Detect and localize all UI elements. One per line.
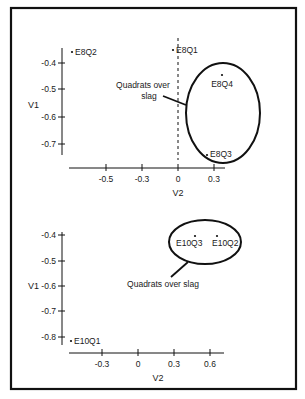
- top-x-tick-label: 0.3: [208, 174, 220, 184]
- annotation-text-top: Quadrats over: [116, 80, 170, 90]
- bottom-x-tick-label: -0.3: [95, 359, 110, 369]
- data-point-e10q2: [216, 235, 218, 237]
- bottom-y-axis-title: V1: [28, 281, 39, 291]
- slag-ellipse-top: [186, 63, 260, 163]
- top-x-tick-label: 0: [176, 174, 181, 184]
- annotation-leader-bottom: [171, 262, 188, 277]
- point-label-e8q3: E8Q3: [210, 149, 232, 159]
- chart-bottom: -0.4 -0.5 -0.6 -0.7 -0.8 V1 -0.3 0 0.3 0…: [28, 220, 241, 383]
- top-y-tick-label: -0.6: [41, 112, 56, 122]
- bottom-y-tick-label: -0.8: [41, 332, 56, 342]
- data-point-e8q2: [71, 51, 73, 53]
- data-point-e8q3: [206, 154, 208, 156]
- top-x-tick-label: -0.5: [99, 174, 114, 184]
- bottom-y-tick-label: -0.4: [41, 230, 56, 240]
- chart-top: -0.4 -0.5 -0.6 -0.7 V1 -0.5 -0.3 0 0.3 V…: [28, 38, 260, 198]
- top-x-axis-title: V2: [172, 188, 183, 198]
- annotation-text-top-line2: slag: [141, 91, 157, 101]
- point-label-e8q2: E8Q2: [75, 47, 97, 57]
- data-point-e10q1: [70, 340, 72, 342]
- figure: -0.4 -0.5 -0.6 -0.7 V1 -0.5 -0.3 0 0.3 V…: [0, 0, 305, 399]
- top-x-tick-label: -0.3: [135, 174, 150, 184]
- top-y-tick-label: -0.5: [41, 84, 56, 94]
- top-y-axis-title: V1: [28, 100, 39, 110]
- data-point-e10q3: [194, 235, 196, 237]
- bottom-x-tick-label: 0.3: [168, 359, 180, 369]
- bottom-y-tick-label: -0.6: [41, 281, 56, 291]
- bottom-x-tick-label: 0.6: [204, 359, 216, 369]
- point-label-e10q2: E10Q2: [212, 238, 239, 248]
- bottom-y-tick-label: -0.7: [41, 306, 56, 316]
- data-point-e8q1: [172, 49, 174, 51]
- annotation-text-bottom: Quadrats over slag: [127, 279, 199, 289]
- bottom-x-axis-title: V2: [152, 373, 163, 383]
- point-label-e10q1: E10Q1: [74, 336, 101, 346]
- point-label-e8q1: E8Q1: [176, 45, 198, 55]
- point-label-e10q3: E10Q3: [176, 238, 203, 248]
- bottom-x-tick-label: 0: [136, 359, 141, 369]
- point-label-e8q4: E8Q4: [211, 79, 233, 89]
- top-y-tick-label: -0.7: [41, 139, 56, 149]
- bottom-y-tick-label: -0.5: [41, 256, 56, 266]
- annotation-leader-top: [163, 96, 186, 105]
- data-point-e8q4: [221, 74, 223, 76]
- top-y-tick-label: -0.4: [41, 58, 56, 68]
